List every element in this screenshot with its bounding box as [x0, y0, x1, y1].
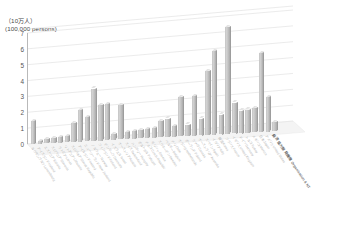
- bar-front-face: [259, 53, 263, 132]
- bar-front-face: [205, 71, 209, 135]
- bar-front-face: [199, 119, 203, 136]
- bar: [212, 51, 215, 134]
- bar-front-face: [172, 126, 176, 137]
- y-tick-label: 6: [10, 45, 24, 52]
- bar-front-face: [245, 110, 249, 133]
- bar: [199, 119, 202, 136]
- bar-front-face: [212, 51, 216, 134]
- bar-front-face: [192, 96, 196, 136]
- y-tick-label: 1: [10, 125, 24, 132]
- bar: [152, 128, 155, 138]
- bar-front-face: [138, 130, 142, 138]
- bar-front-face: [266, 97, 270, 131]
- bar-front-face: [152, 128, 156, 138]
- bar-chart: （10万人） (100,000 persons) 01234567 ルクセンブル…: [0, 0, 340, 225]
- bar: [132, 131, 135, 139]
- y-tick-label: 7: [10, 30, 24, 37]
- bar: [138, 130, 141, 138]
- bar: [259, 53, 262, 132]
- bar-front-face: [31, 121, 35, 144]
- bar-front-face: [118, 105, 122, 139]
- bar: [44, 139, 47, 143]
- bar: [266, 97, 269, 131]
- bar-front-face: [91, 89, 95, 141]
- bar: [58, 137, 61, 143]
- bar: [38, 141, 41, 143]
- bar-front-face: [178, 97, 182, 136]
- bar: [185, 125, 188, 136]
- bar: [252, 108, 255, 132]
- y-tick-label: 5: [10, 61, 24, 68]
- bar: [239, 111, 242, 134]
- bar-front-face: [145, 129, 149, 138]
- bar: [165, 119, 168, 137]
- bar: [205, 71, 208, 135]
- bar: [145, 129, 148, 138]
- bar: [65, 136, 68, 142]
- y-tick-label: 2: [10, 109, 24, 116]
- bar-front-face: [111, 134, 115, 139]
- bar: [78, 110, 81, 141]
- bar: [178, 97, 181, 136]
- bar-front-face: [71, 123, 75, 142]
- bar-front-face: [98, 105, 102, 140]
- bar: [172, 126, 175, 137]
- bar-front-face: [44, 139, 48, 143]
- bar-front-face: [85, 117, 89, 141]
- bar: [51, 138, 54, 143]
- bar-front-face: [239, 111, 243, 134]
- bar-front-face: [125, 132, 129, 139]
- bar-front-face: [165, 119, 169, 137]
- bar-front-face: [252, 108, 256, 132]
- bar: [31, 121, 34, 144]
- y-tick-label: 4: [10, 77, 24, 84]
- bar-front-face: [38, 141, 42, 143]
- bar-front-face: [105, 104, 109, 140]
- bar: [125, 132, 128, 139]
- bar-front-face: [58, 137, 62, 143]
- bar: [158, 121, 161, 137]
- bar: [232, 103, 235, 134]
- bar-front-face: [65, 136, 69, 142]
- bar: [85, 117, 88, 141]
- bar-front-face: [219, 115, 223, 135]
- bar-front-face: [232, 103, 236, 134]
- bar-front-face: [78, 110, 82, 141]
- bar-front-face: [132, 131, 136, 139]
- bar: [219, 115, 222, 135]
- bar: [98, 105, 101, 140]
- bar-front-face: [185, 125, 189, 136]
- bar-front-face: [51, 138, 55, 143]
- bar-front-face: [225, 27, 229, 133]
- y-tick-label: 3: [10, 93, 24, 100]
- plot-area: [27, 33, 293, 144]
- bar: [91, 89, 94, 141]
- y-axis-ticks: 01234567: [27, 33, 28, 144]
- bar: [225, 27, 228, 133]
- bar: [111, 134, 114, 139]
- bar: [272, 122, 275, 131]
- bar-front-face: [158, 121, 162, 137]
- y-tick-label: 0: [10, 141, 24, 148]
- bar-series: [27, 33, 293, 144]
- bar: [71, 123, 74, 142]
- bar-front-face: [272, 122, 276, 131]
- bar: [245, 110, 248, 133]
- bar: [105, 104, 108, 140]
- bar: [118, 105, 121, 139]
- bar: [192, 96, 195, 136]
- y-axis-unit-japanese: （10万人）: [5, 17, 57, 25]
